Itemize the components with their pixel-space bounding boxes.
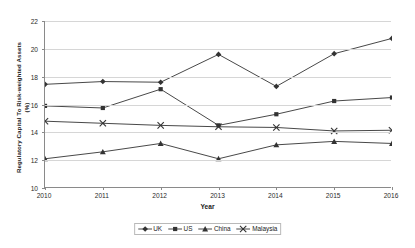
- y-tick-mark: [42, 132, 45, 133]
- series-line-us: [45, 89, 392, 125]
- y-tick-label: 14: [16, 129, 38, 136]
- gridline: [45, 49, 391, 50]
- gridline: [45, 160, 391, 161]
- x-tick-label: 2010: [24, 192, 64, 199]
- gridline: [45, 77, 391, 78]
- chart-container: Regulatory Capital To Risk-weighted Asse…: [0, 0, 415, 248]
- data-point-us: [101, 106, 105, 110]
- data-point-uk: [100, 79, 106, 85]
- data-point-china: [158, 141, 164, 146]
- x-tick-mark: [334, 187, 335, 190]
- y-tick-label: 10: [16, 185, 38, 192]
- y-axis-ticks: 10121416182022: [14, 0, 38, 248]
- legend-label: Malaysia: [252, 225, 277, 233]
- y-tick-mark: [42, 49, 45, 50]
- data-point-uk: [45, 81, 48, 87]
- x-tick-mark: [103, 187, 104, 190]
- data-point-uk: [273, 84, 279, 90]
- x-axis-title: Year: [0, 203, 415, 210]
- data-point-uk: [331, 51, 337, 57]
- x-tick-mark: [161, 187, 162, 190]
- data-point-us: [159, 87, 163, 91]
- series-line-uk: [45, 38, 392, 86]
- legend-label: UK: [153, 225, 162, 233]
- data-point-uk: [389, 36, 392, 42]
- x-tick-label: 2016: [371, 192, 411, 199]
- x-tick-mark: [276, 187, 277, 190]
- legend-marker-triangle-icon: [198, 225, 212, 233]
- data-point-us: [332, 99, 336, 103]
- legend-marker-cross-icon: [237, 225, 251, 233]
- gridline: [45, 105, 391, 106]
- legend-label: US: [184, 225, 193, 233]
- y-tick-mark: [42, 77, 45, 78]
- chart-legend: UKUSChinaMalaysia: [134, 223, 282, 235]
- x-tick-label: 2013: [198, 192, 238, 199]
- x-tick-label: 2012: [140, 192, 180, 199]
- y-tick-mark: [42, 160, 45, 161]
- data-point-uk: [158, 79, 164, 85]
- y-tick-mark: [42, 21, 45, 22]
- y-tick-label: 16: [16, 101, 38, 108]
- x-tick-mark: [392, 187, 393, 190]
- x-tick-label: 2014: [255, 192, 295, 199]
- x-tick-label: 2011: [82, 192, 122, 199]
- y-tick-label: 12: [16, 157, 38, 164]
- x-tick-label: 2015: [313, 192, 353, 199]
- x-tick-mark: [219, 187, 220, 190]
- y-tick-label: 18: [16, 73, 38, 80]
- legend-item-china[interactable]: China: [198, 225, 230, 233]
- legend-marker-diamond-icon: [138, 225, 152, 233]
- data-point-us: [274, 112, 278, 116]
- y-tick-label: 22: [16, 18, 38, 25]
- data-point-us: [390, 95, 392, 99]
- gridline: [45, 21, 391, 22]
- x-tick-mark: [45, 187, 46, 190]
- legend-item-malaysia[interactable]: Malaysia: [237, 225, 278, 233]
- data-point-uk: [216, 52, 222, 58]
- plot-area: [44, 21, 391, 188]
- legend-marker-square-icon: [168, 225, 182, 233]
- gridline: [45, 132, 391, 133]
- legend-label: China: [214, 225, 231, 233]
- y-tick-label: 20: [16, 45, 38, 52]
- legend-item-uk[interactable]: UK: [138, 225, 162, 233]
- legend-item-us[interactable]: US: [168, 225, 192, 233]
- y-tick-mark: [42, 105, 45, 106]
